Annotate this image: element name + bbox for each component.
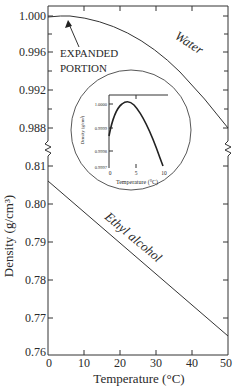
x-tick-labels: 0 10 20 30 40 50: [46, 356, 232, 370]
x-tick-label: 50: [220, 356, 232, 370]
x-tick-label: 20: [114, 356, 126, 370]
expanded-label-line1: EXPANDED: [60, 47, 118, 59]
y-tick-label: 0.988: [19, 121, 46, 135]
y-tick-label: 1.000: [19, 9, 46, 23]
inset-y-tick-label: 0.9997: [95, 165, 108, 170]
y-tick-label: 0.76: [25, 345, 46, 359]
x-axis-ticks: [84, 350, 192, 355]
density-chart: 1.000 0.996 0.992 0.988 0.81 0.80 0.79 0…: [0, 0, 234, 388]
inset-y-tick-label: 0.9998: [95, 149, 108, 154]
x-tick-label: 30: [150, 356, 162, 370]
inset-x-tick-label: 0: [109, 170, 112, 176]
expanded-portion-annotation: EXPANDED PORTION: [60, 20, 118, 74]
y-tick-labels: 1.000 0.996 0.992 0.988 0.81 0.80 0.79 0…: [19, 9, 46, 359]
inset-y-tick-label: 0.9999: [95, 126, 108, 131]
x-axis-label: Temperature (°C): [93, 371, 184, 386]
y-tick-label: 0.77: [25, 311, 46, 325]
y-axis-label: Density (g/cm³): [1, 195, 16, 277]
inset-x-axis-label: Temperature (°C): [116, 179, 158, 186]
expanded-label-line2: PORTION: [60, 62, 107, 74]
inset-x-tick-label: 5: [135, 170, 138, 176]
inset-y-tick-label: 1.0000: [95, 102, 108, 107]
y-tick-label: 0.81: [25, 159, 46, 173]
y-tick-label: 0.996: [19, 45, 46, 59]
y-tick-label: 0.992: [19, 83, 46, 97]
inset-x-tick-label: 10: [161, 170, 167, 176]
ethyl-alcohol-label: Ethyl alcohol: [101, 208, 165, 265]
inset-y-axis-label: Density (g/cm³): [80, 115, 85, 144]
arrow-line: [69, 24, 79, 47]
top-ticks: [84, 6, 192, 11]
water-label: Water: [172, 28, 207, 58]
y-tick-label: 0.78: [25, 273, 46, 287]
x-tick-label: 40: [186, 356, 198, 370]
y-tick-label: 0.79: [25, 235, 46, 249]
x-tick-label: 10: [78, 356, 90, 370]
x-tick-label: 0: [46, 356, 52, 370]
y-tick-label: 0.80: [25, 197, 46, 211]
arrow-head-icon: [65, 20, 72, 28]
inset-circle: [71, 70, 191, 190]
ethyl-alcohol-line: [48, 181, 228, 336]
